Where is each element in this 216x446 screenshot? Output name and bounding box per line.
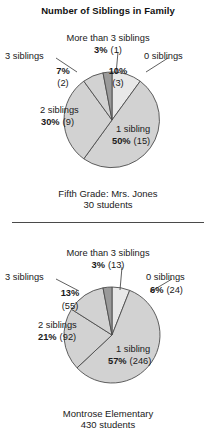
siblings-pie-figure: Number of Siblings in Family More than 3… — [0, 0, 216, 446]
caption-montrose-line1: Montrose Elementary — [0, 408, 216, 420]
pie-chart-montrose-elementary — [0, 0, 216, 446]
value-1-sibling-pct-chart2: 57% — [108, 356, 127, 366]
value-0-siblings-chart2: 6%(24) — [150, 285, 183, 296]
count-more-than-3-chart2: (13) — [108, 260, 125, 270]
caption-montrose-line2: 430 students — [0, 419, 216, 431]
label-more-than-3-siblings-chart2: More than 3 siblings — [28, 248, 188, 259]
count-1-sibling-chart2: (246) — [130, 356, 152, 366]
label-2-siblings-chart2: 2 siblings — [38, 320, 77, 331]
value-3-siblings-chart2: 13% — [53, 288, 87, 299]
value-1-sibling-chart2: 57%(246) — [108, 356, 151, 367]
label-3-siblings-chart2: 3 siblings — [5, 272, 44, 283]
value-3-siblings-pct-chart2: 13% — [61, 288, 80, 298]
count-2-siblings-chart2: (92) — [60, 332, 77, 342]
label-1-sibling-chart2: 1 sibling — [116, 344, 150, 355]
count-0-siblings-chart2: (24) — [166, 285, 183, 295]
count-3-siblings-chart2: (55) — [53, 301, 87, 312]
label-more-than-3-value-chart2: 3%(13) — [58, 260, 158, 271]
value-2-siblings-pct-chart2: 21% — [38, 332, 57, 342]
value-2-siblings-chart2: 21%(92) — [38, 332, 76, 343]
value-more-than-3-chart2: 3% — [92, 260, 105, 270]
label-0-siblings-chart2: 0 siblings — [146, 272, 185, 283]
value-0-siblings-pct-chart2: 6% — [150, 285, 163, 295]
